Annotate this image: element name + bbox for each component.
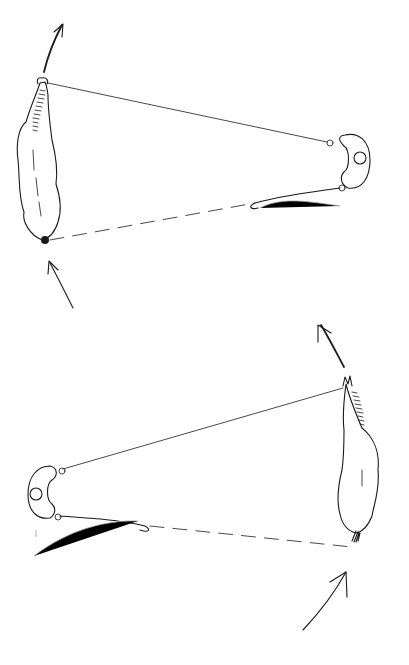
lunge-line-bottom: [63, 388, 343, 469]
lunge-line-top: [48, 83, 327, 142]
top-panel: [17, 24, 370, 308]
bottom-panel: [28, 325, 378, 630]
handler-top: [327, 134, 370, 191]
arrow-top-head: [44, 25, 62, 72]
horse-top: [17, 82, 60, 240]
arrow-bottom-tail: [303, 572, 346, 630]
horse-bottom: [338, 384, 379, 533]
handler-bottom: [28, 466, 65, 520]
arrow-bottom-head: [321, 325, 344, 367]
whip-line-bottom: [150, 526, 352, 547]
arrow-top-tail: [50, 263, 73, 308]
lunging-diagram: [0, 0, 409, 665]
tail-top: [41, 236, 49, 244]
whip-line-top: [50, 203, 255, 240]
